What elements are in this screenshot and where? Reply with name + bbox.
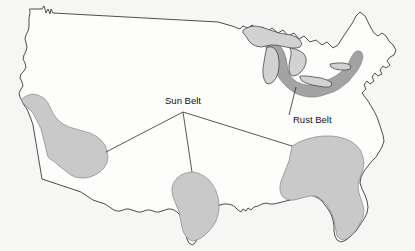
map-label-sun-belt: Sun Belt [165,95,201,106]
region-sun-belt-southeast [280,136,364,240]
us-map-svg: Sun Belt Rust Belt [0,0,415,251]
map-figure: Sun Belt Rust Belt [0,0,415,251]
map-label-rust-belt: Rust Belt [293,114,332,125]
